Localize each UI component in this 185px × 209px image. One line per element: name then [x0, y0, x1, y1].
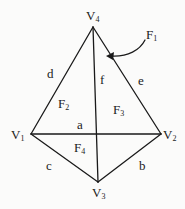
edge-c: [31, 134, 98, 182]
vertex-label-v3: V3: [92, 186, 105, 203]
face-label-f3: F3: [113, 103, 124, 120]
edge-f: [93, 27, 98, 182]
edge-label-b: b: [139, 159, 146, 172]
edge-label-e: e: [138, 74, 144, 87]
vertex-label-v1: V1: [11, 128, 24, 145]
face-label-f1: F1: [146, 28, 157, 45]
graph-diagram: V4 V1 V2 V3 a b c d e f F1 F2 F3 F4: [0, 0, 185, 209]
edge-label-a: a: [77, 118, 83, 131]
edge-label-f: f: [100, 73, 104, 86]
edge-label-c: c: [46, 159, 52, 172]
vertex-label-v2: V2: [163, 128, 176, 145]
edge-d: [31, 27, 93, 134]
face-label-f2: F2: [58, 97, 69, 114]
graph-lines: [0, 0, 185, 209]
edge-label-d: d: [47, 67, 54, 80]
edge-b: [98, 134, 161, 182]
face-label-f4: F4: [74, 141, 85, 158]
vertex-label-v4: V4: [86, 9, 99, 26]
f1-pointer-arrow: [111, 40, 145, 56]
